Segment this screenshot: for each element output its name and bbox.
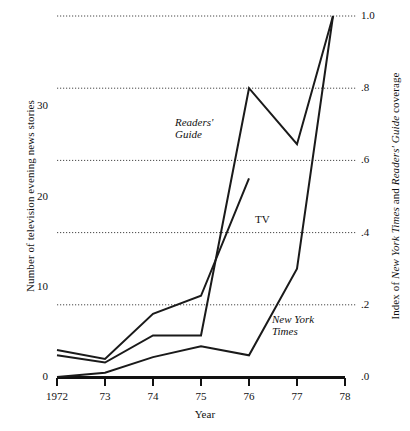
y-axis-left-tick-label: 0 — [10, 370, 48, 382]
y-axis-left-tick-label: 10 — [10, 280, 48, 292]
y-axis-right-tick-label: .0 — [361, 370, 401, 382]
series-line — [57, 178, 249, 359]
y-axis-left-tick-label: 20 — [10, 190, 48, 202]
series-label-line: Times — [272, 325, 314, 337]
chart-container: Number of television evening news storie… — [0, 0, 410, 431]
series-label-line: Readers' — [175, 116, 213, 128]
x-axis-tick-label: 78 — [320, 390, 370, 402]
x-axis-title: Year — [0, 408, 410, 420]
y-axis-right-title-part: and — [389, 185, 401, 207]
y-axis-right-tick-label: 1.0 — [361, 9, 401, 21]
y-axis-right-title-part: New York Times — [389, 207, 401, 279]
y-axis-right-tick-label: .2 — [361, 298, 401, 310]
series-label: TV — [255, 213, 270, 225]
series-line — [57, 16, 333, 363]
y-axis-left-tick-label: 30 — [10, 99, 48, 111]
y-axis-right-title: Index of New York Times and Readers' Gui… — [389, 26, 401, 366]
x-axis-tick-label: 1972 — [32, 390, 82, 402]
x-axis-tick-label: 76 — [224, 390, 274, 402]
series-label: New YorkTimes — [272, 313, 314, 337]
y-axis-right-tick-label: .4 — [361, 226, 401, 238]
y-axis-right-title-part: Readers' Guide — [389, 116, 401, 185]
x-axis-tick-label: 74 — [128, 390, 178, 402]
series-label: Readers'Guide — [175, 116, 213, 140]
x-axis-tick-label: 75 — [176, 390, 226, 402]
chart-plot-area — [0, 0, 410, 431]
x-axis-tick-label: 77 — [272, 390, 322, 402]
x-axis-tick-label: 73 — [80, 390, 130, 402]
y-axis-right-tick-label: .6 — [361, 153, 401, 165]
series-label-line: New York — [272, 313, 314, 325]
y-axis-right-title-part: coverage — [389, 72, 401, 115]
series-label-line: Guide — [175, 128, 213, 140]
y-axis-right-tick-label: .8 — [361, 81, 401, 93]
series-label-line: TV — [255, 213, 270, 225]
